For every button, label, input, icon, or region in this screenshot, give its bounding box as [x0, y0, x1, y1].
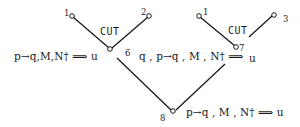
- node-6-label: 6: [125, 49, 130, 58]
- node-1-label: 1: [64, 9, 69, 18]
- cut-label-left: CUT: [100, 27, 120, 37]
- proof-tree-diagram: 1 2 6 1 3 7 8 CUT CUT p→q,M,N† ⟹ u q , p…: [0, 0, 300, 127]
- node-6-circle: [108, 47, 113, 52]
- edge-7-to-8: [176, 64, 225, 110]
- edge-6-to-8: [117, 58, 171, 110]
- node-3-circle: [272, 13, 277, 18]
- node-2-label: 2: [141, 8, 146, 17]
- node-8-label: 8: [160, 114, 165, 123]
- node-2-circle: [147, 14, 152, 19]
- node-1r-circle: [197, 14, 202, 19]
- node-3-label: 3: [283, 15, 288, 24]
- node-7-circle: [234, 45, 239, 50]
- node-1r-label: 1: [203, 8, 208, 17]
- sequent-node-7-left: q , p→q , M , N† ⟹: [139, 51, 243, 62]
- cut-label-right: CUT: [228, 26, 248, 36]
- node-8-circle: [171, 109, 176, 114]
- sequent-node-6-left: p→q,M,N† ⟹ u: [14, 51, 98, 62]
- edge-3-to-7: [249, 16, 272, 37]
- node-1-circle: [70, 14, 75, 19]
- sequent-node-7-right: u: [249, 53, 256, 64]
- sequent-node-8: p→q , M , N† ⟹ u: [186, 107, 284, 118]
